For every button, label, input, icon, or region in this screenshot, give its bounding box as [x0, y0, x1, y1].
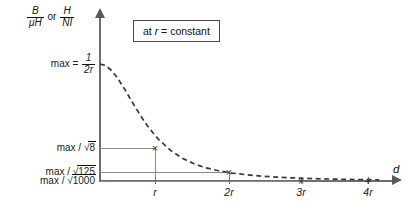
x-tick-label-4r: 4r: [363, 186, 372, 198]
data-point-marker-1: ×: [225, 168, 234, 177]
decay-curve-path: [100, 64, 379, 180]
x-tick-label-r: r: [153, 186, 157, 198]
y-axis-label-fraction: 12r: [82, 53, 95, 75]
x-tick-2r: [229, 177, 230, 184]
guide-h-sqrt1000: [100, 181, 302, 182]
y-axis-line: [99, 16, 101, 182]
annotation-equals: =: [161, 25, 167, 37]
y-axis-label-max-over-sqrt1000: max / √1000: [40, 174, 96, 186]
data-point-marker-3: +: [364, 177, 373, 186]
annotation-box: at r = constant: [133, 20, 220, 42]
y-axis-label-sqrt: √8: [84, 141, 96, 153]
guide-h-sqrt125: [100, 172, 230, 173]
y-axis-fraction-denominator-muh: μH: [27, 18, 44, 29]
data-point-marker-0: ×: [151, 144, 160, 153]
x-tick-label-2r: 2r: [224, 186, 233, 198]
y-axis-fraction-h-over-ni: H NI: [60, 6, 74, 28]
y-axis-title: B μH or H NI: [26, 6, 75, 28]
radicand-value: 8: [88, 141, 96, 153]
guide-h-sqrt8: [100, 148, 156, 149]
fraction-denominator: 2r: [82, 65, 95, 76]
y-axis-conjunction: or: [48, 11, 57, 22]
x-tick-label-3r: 3r: [296, 186, 305, 198]
magnetic-field-decay-figure: B μH or H NI d r2r3r4r max = 12rmax / √8…: [0, 0, 417, 219]
x-axis-title: d: [393, 163, 399, 175]
y-axis-label-prefix: max =: [51, 58, 81, 69]
y-axis-label-sqrt: √1000: [67, 174, 96, 186]
y-axis-fraction-denominator-ni: NI: [60, 18, 74, 29]
y-axis-label-prefix: max /: [40, 175, 67, 186]
radicand-value: 1000: [72, 174, 96, 186]
y-axis-label-max-over-sqrt8: max / √8: [57, 141, 96, 153]
x-axis-arrowhead-icon: [392, 175, 402, 185]
annotation-prefix: at: [143, 25, 152, 37]
annotation-variable: r: [155, 25, 159, 37]
fraction-numerator: 1: [82, 53, 95, 65]
data-point-marker-2: ×: [297, 177, 306, 186]
y-axis-label-prefix: max /: [57, 142, 84, 153]
h-symbol: H: [34, 17, 41, 28]
y-axis-label-max: max = 12r: [51, 53, 96, 75]
x-tick-r: [155, 177, 156, 184]
y-axis-fraction-numerator-h: H: [60, 6, 74, 18]
annotation-value: constant: [170, 25, 210, 37]
y-axis-fraction-b-over-muh: B μH: [27, 6, 44, 28]
y-axis-arrowhead-icon: [95, 8, 105, 18]
